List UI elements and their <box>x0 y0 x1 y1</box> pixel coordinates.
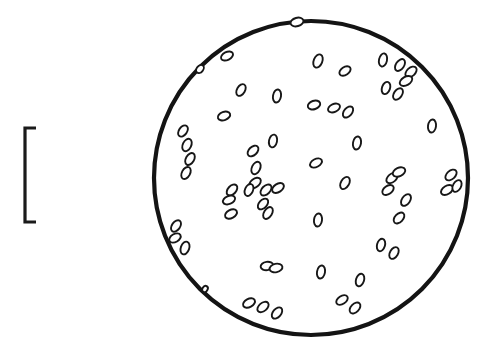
scale-bar-path <box>25 128 36 222</box>
figure-canvas <box>0 0 489 358</box>
figure-root <box>0 0 489 358</box>
scale-bar <box>25 128 36 222</box>
